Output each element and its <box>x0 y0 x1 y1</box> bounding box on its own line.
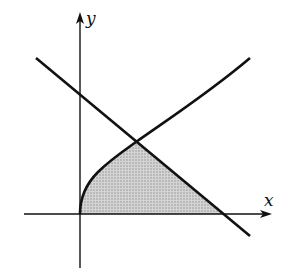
region-diagram: x y <box>0 0 288 276</box>
x-axis-label: x <box>264 190 274 210</box>
y-axis-label: y <box>85 8 96 28</box>
